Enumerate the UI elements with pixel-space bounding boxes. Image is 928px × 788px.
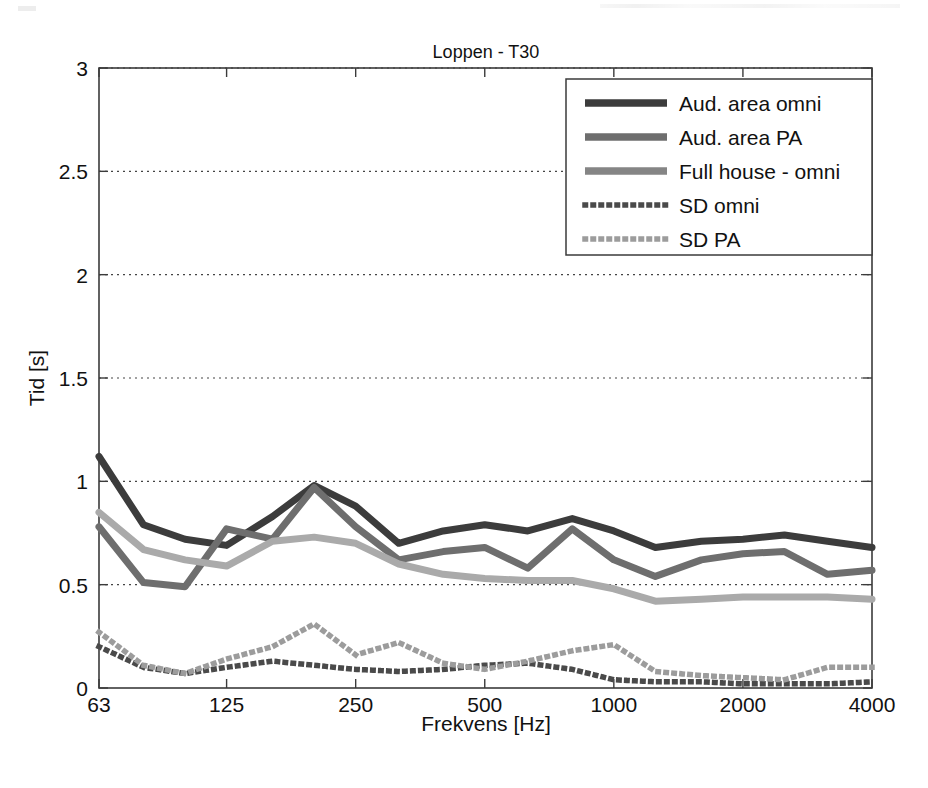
x-tick-label: 1000 bbox=[590, 693, 637, 716]
legend-label-1: Aud. area PA bbox=[679, 126, 802, 149]
y-tick-labels: 00.511.522.53 bbox=[59, 57, 88, 700]
x-axis-label: Frekvens [Hz] bbox=[421, 712, 551, 735]
x-tick-label: 4000 bbox=[849, 693, 896, 716]
y-axis-label: Tid [s] bbox=[25, 350, 48, 406]
legend-label-2: Full house - omni bbox=[679, 160, 840, 183]
y-tick-label: 1 bbox=[76, 470, 88, 493]
series-line-0 bbox=[99, 457, 872, 548]
chart-canvas: 63125250500100020004000 00.511.522.53 Au… bbox=[0, 0, 928, 788]
x-tick-label: 125 bbox=[209, 693, 244, 716]
x-tick-label: 250 bbox=[338, 693, 373, 716]
legend-label-3: SD omni bbox=[679, 194, 760, 217]
y-tick-label: 3 bbox=[76, 57, 88, 80]
x-tick-label: 2000 bbox=[720, 693, 767, 716]
data-series bbox=[99, 457, 872, 684]
legend-label-4: SD PA bbox=[679, 228, 740, 251]
y-tick-label: 0.5 bbox=[59, 574, 88, 597]
legend-label-0: Aud. area omni bbox=[679, 92, 821, 115]
chart-figure: 63125250500100020004000 00.511.522.53 Au… bbox=[0, 0, 928, 788]
x-tick-label: 63 bbox=[87, 693, 110, 716]
chart-title: Loppen - T30 bbox=[433, 42, 540, 62]
y-tick-label: 0 bbox=[76, 677, 88, 700]
y-tick-label: 2 bbox=[76, 264, 88, 287]
scan-artifact-corner bbox=[18, 6, 36, 11]
scan-artifact-top bbox=[600, 4, 900, 8]
y-tick-label: 1.5 bbox=[59, 367, 88, 390]
y-tick-label: 2.5 bbox=[59, 160, 88, 183]
chart-legend: Aud. area omniAud. area PAFull house - o… bbox=[566, 79, 872, 255]
